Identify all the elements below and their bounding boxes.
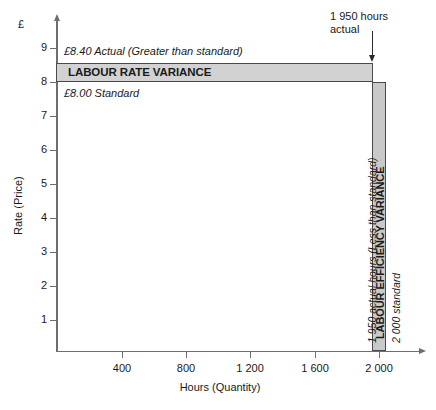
y-tick-label-5: 5: [27, 177, 47, 189]
x-tick-label-800: 800: [156, 362, 216, 374]
y-tick-7: [50, 116, 57, 117]
standard-rate-note: £8.00 Standard: [64, 87, 139, 99]
x-axis-arrow-icon: [419, 348, 426, 354]
y-tick-1: [50, 320, 57, 321]
y-tick-4: [50, 218, 57, 219]
actual-hours-callout-line1: 1 950 hours: [330, 10, 388, 23]
actual-hours-callout-line2: actual: [330, 23, 359, 36]
labour-variance-chart: £ 9 8 7 6 5 4 3 2 1 Rate (Price) 400 800…: [0, 0, 436, 410]
x-tick-1200: [250, 351, 251, 358]
y-tick-label-8: 8: [27, 75, 47, 87]
y-tick-label-1: 1: [27, 313, 47, 325]
callout-arrow-shaft: [372, 31, 373, 56]
y-tick-label-3: 3: [27, 245, 47, 257]
x-axis-title: Hours (Quantity): [120, 381, 320, 393]
x-tick-label-400: 400: [92, 362, 152, 374]
y-tick-label-4: 4: [27, 211, 47, 223]
x-tick-400: [122, 351, 123, 358]
y-tick-2: [50, 286, 57, 287]
x-tick-1600: [315, 351, 316, 358]
x-tick-label-2000: 2 000: [349, 362, 409, 374]
y-tick-label-2: 2: [27, 279, 47, 291]
callout-arrow-icon: [369, 55, 375, 62]
y-tick-6: [50, 150, 57, 151]
x-tick-label-1600: 1 600: [285, 362, 345, 374]
y-tick-label-6: 6: [27, 143, 47, 155]
y-tick-label-9: 9: [27, 41, 47, 53]
standard-hours-vertical-note: 2 000 standard: [390, 273, 402, 343]
x-tick-2000: [379, 351, 380, 358]
x-tick-label-1200: 1 200: [220, 362, 280, 374]
y-tick-label-7: 7: [27, 109, 47, 121]
y-tick-5: [50, 184, 57, 185]
labour-rate-variance-label: LABOUR RATE VARIANCE: [68, 66, 211, 78]
actual-rate-note: £8.40 Actual (Greater than standard): [64, 45, 243, 57]
y-tick-9: [50, 48, 57, 49]
y-axis-unit-symbol: £: [18, 18, 24, 30]
y-axis-title: Rate (Price): [12, 176, 24, 235]
x-tick-800: [186, 351, 187, 358]
actual-hours-vertical-note: 1 950 actual hours (Less than standard): [366, 157, 378, 343]
y-tick-3: [50, 252, 57, 253]
x-axis-line: [56, 351, 420, 353]
